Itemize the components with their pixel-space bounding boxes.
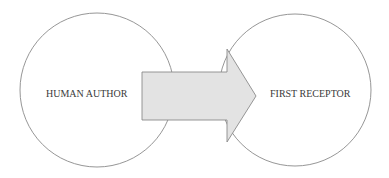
diagram-canvas: HUMAN AUTHOR FIRST RECEPTOR <box>0 0 389 178</box>
first-receptor-label: FIRST RECEPTOR <box>270 88 351 99</box>
human-author-label: HUMAN AUTHOR <box>46 88 128 99</box>
